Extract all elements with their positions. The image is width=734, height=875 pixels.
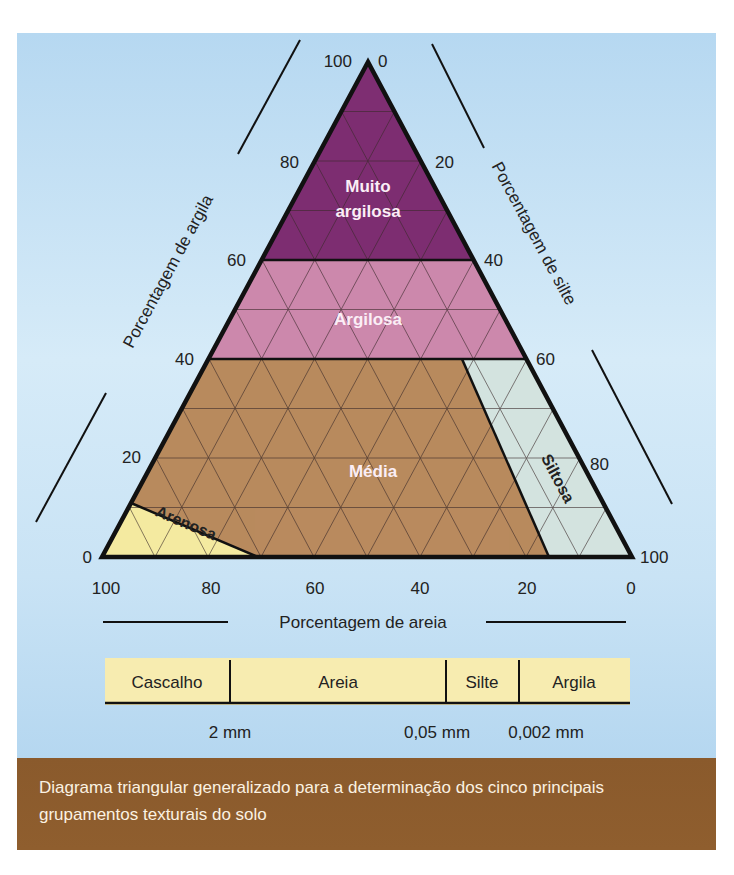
svg-text:Porcentagem de areia: Porcentagem de areia [279,613,447,632]
svg-text:0: 0 [626,579,635,598]
svg-text:100: 100 [92,579,120,598]
svg-text:100: 100 [324,52,352,71]
size-cell-areia: Areia [318,673,358,692]
sand-axis-title: Porcentagem de areia [103,613,626,632]
svg-text:20: 20 [435,153,454,172]
svg-text:80: 80 [280,153,299,172]
svg-text:40: 40 [411,579,430,598]
label-muito-argilosa-1: Muito [345,177,390,196]
boundary-2mm: 2 mm [209,723,252,742]
svg-text:100: 100 [640,548,668,567]
soil-texture-triangle: Muito argilosa Argilosa Média Siltosa Ar… [0,0,734,875]
svg-text:Porcentagem de argila: Porcentagem de argila [119,191,217,351]
size-cell-silte: Silte [465,673,498,692]
caption-text: Diagrama triangular generalizado para a … [39,774,699,828]
particle-size-scale: Cascalho Areia Silte Argila 2 mm 0,05 mm… [105,658,630,742]
svg-text:40: 40 [175,350,194,369]
svg-text:80: 80 [590,455,609,474]
caption-band: Diagrama triangular generalizado para a … [17,758,716,850]
label-media: Média [349,462,398,481]
region-muito-argilosa [0,0,734,260]
label-muito-argilosa-2: argilosa [335,202,401,221]
svg-text:40: 40 [484,251,503,270]
sand-axis-ticks: 100 80 60 40 20 0 [92,579,636,598]
svg-text:80: 80 [202,579,221,598]
svg-text:60: 60 [536,350,555,369]
label-argilosa: Argilosa [334,310,403,329]
svg-text:Porcentagem de silte: Porcentagem de silte [488,159,580,309]
svg-text:0: 0 [83,548,92,567]
size-cell-argila: Argila [552,673,596,692]
svg-text:20: 20 [122,448,141,467]
size-cell-cascalho: Cascalho [132,673,203,692]
svg-text:20: 20 [518,579,537,598]
boundary-0002mm: 0,002 mm [508,723,584,742]
svg-text:0: 0 [378,52,387,71]
svg-text:60: 60 [306,579,325,598]
boundary-005mm: 0,05 mm [404,723,470,742]
svg-text:60: 60 [227,251,246,270]
